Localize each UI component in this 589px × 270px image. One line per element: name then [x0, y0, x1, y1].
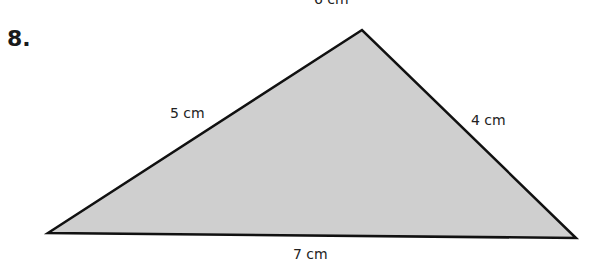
- left-side-label: 5 cm: [170, 105, 205, 121]
- diagram-canvas: 8. 6 cm 5 cm 4 cm 7 cm: [0, 0, 589, 270]
- triangle-shape: [48, 30, 576, 238]
- right-side-label: 4 cm: [471, 112, 506, 128]
- base-label: 7 cm: [293, 246, 328, 262]
- triangle-figure: [0, 0, 589, 270]
- top-side-label: 6 cm: [314, 0, 349, 7]
